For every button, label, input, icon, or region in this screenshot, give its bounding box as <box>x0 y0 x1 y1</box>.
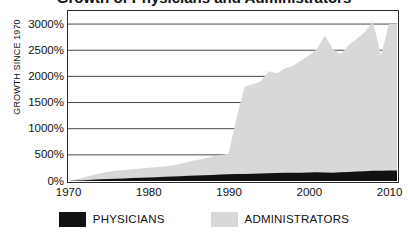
chart-plot-svg <box>68 11 397 181</box>
y-tick-1000%: 1000% <box>28 124 64 136</box>
legend-item-administrators: ADMINISTRATORS <box>211 212 350 227</box>
area-administrators <box>68 21 397 181</box>
y-tick-3000%: 3000% <box>28 19 64 31</box>
y-tick-2000%: 2000% <box>28 71 64 83</box>
plot-area <box>67 10 399 183</box>
y-tick-1500%: 1500% <box>28 97 64 109</box>
legend-label-physicians: PHYSICIANS <box>93 213 165 225</box>
y-tick-2500%: 2500% <box>28 45 64 57</box>
legend-label-administrators: ADMINISTRATORS <box>245 213 350 225</box>
x-tick-2010: 2010 <box>377 186 403 198</box>
chart-title: Growth of Physicians and Administrators <box>0 0 408 6</box>
chart-container: Growth of Physicians and Administrators … <box>0 0 408 237</box>
chart-legend: PHYSICIANS ADMINISTRATORS <box>0 208 408 230</box>
chart-title-clipped: Growth of Physicians and Administrators <box>0 0 408 9</box>
legend-swatch-administrators <box>211 212 238 227</box>
x-tick-2000: 2000 <box>297 186 323 198</box>
y-axis-tick-labels: 0%500%1000%1500%2000%2500%3000% <box>6 14 64 186</box>
x-axis-tick-labels: 19701980199020002010 <box>0 186 408 202</box>
y-tick-500%: 500% <box>35 150 64 162</box>
legend-swatch-physicians <box>59 212 86 227</box>
legend-item-physicians: PHYSICIANS <box>59 212 165 227</box>
x-tick-1970: 1970 <box>56 186 82 198</box>
x-tick-1990: 1990 <box>216 186 242 198</box>
x-tick-1980: 1980 <box>136 186 162 198</box>
